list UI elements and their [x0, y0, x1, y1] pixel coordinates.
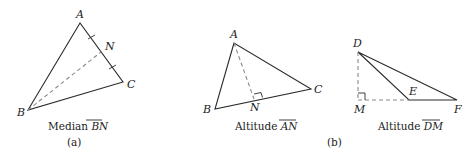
vertex-label-n-b: N [249, 101, 260, 114]
vertex-label-a-b: A [229, 28, 238, 41]
figure-a-median: A B C N Median BN (a) [16, 8, 136, 148]
caption-altitude-an: Altitude AN [234, 120, 298, 132]
right-angle-mark-n [254, 93, 263, 98]
figure-b-altitude-an: A B C N Altitude AN [202, 28, 323, 132]
panel-label-b: (b) [327, 136, 342, 148]
caption-median-bn: Median BN [48, 120, 109, 132]
triangle-abc [28, 23, 123, 110]
triangle-def [358, 52, 457, 100]
vertex-label-m: M [353, 103, 366, 116]
vertex-label-f: F [453, 103, 462, 116]
vertex-label-d: D [352, 37, 362, 50]
vertex-label-a: A [75, 8, 84, 21]
geometry-diagram: A B C N Median BN (a) A B C N Altitude A… [0, 0, 476, 156]
figure-b-altitude-dm: D E M F Altitude DM [352, 37, 462, 132]
vertex-label-c-b: C [314, 83, 323, 96]
caption-altitude-dm: Altitude DM [377, 120, 443, 132]
median-bn [28, 52, 101, 110]
altitude-an [234, 43, 254, 99]
vertex-label-n: N [104, 40, 115, 53]
vertex-label-b-b: B [202, 103, 211, 116]
vertex-label-c: C [127, 78, 136, 91]
vertex-label-b: B [16, 106, 25, 119]
panel-label-a: (a) [67, 136, 81, 148]
right-angle-mark-m [358, 93, 365, 100]
triangle-abc-b [215, 43, 311, 109]
vertex-label-e: E [408, 85, 417, 98]
